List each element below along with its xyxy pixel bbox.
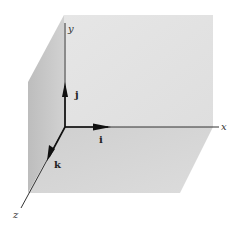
xy-plane — [64, 15, 213, 127]
x-axis-label: x — [221, 121, 227, 132]
j-vector-label: j — [74, 89, 79, 100]
diagram-svg: y x z j i k — [0, 0, 240, 235]
i-vector-label: i — [99, 134, 103, 145]
y-axis-label: y — [67, 23, 74, 34]
z-axis-label: z — [12, 209, 19, 220]
k-vector-label: k — [54, 159, 62, 170]
coordinate-diagram: y x z j i k — [0, 0, 240, 235]
